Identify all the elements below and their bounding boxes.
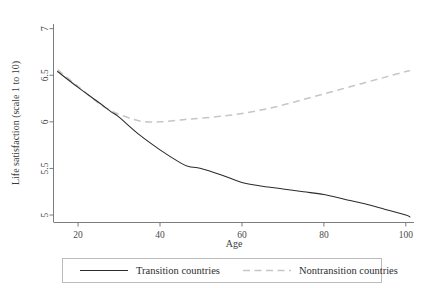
y-tick-group: 55.566.57 xyxy=(40,26,54,217)
y-tick-label: 5 xyxy=(40,212,50,217)
y-tick-label: 7 xyxy=(40,26,50,31)
series-line-transition-countries xyxy=(58,72,410,217)
x-axis: 20406080100 Age xyxy=(54,223,415,250)
x-tick-label: 40 xyxy=(155,230,165,240)
x-axis-title: Age xyxy=(226,238,243,249)
legend-label-transition-countries: Transition countries xyxy=(136,265,220,276)
x-tick-label: 100 xyxy=(399,230,414,240)
chart-page: 55.566.57 Life satisfaction (scale 1 to … xyxy=(0,0,432,288)
series-group xyxy=(58,70,410,217)
y-tick-label: 5.5 xyxy=(40,162,50,174)
series-line-nontransition-countries xyxy=(58,70,410,122)
y-axis-title: Life satisfaction (scale 1 to 10) xyxy=(10,61,22,185)
y-tick-label: 6 xyxy=(40,119,50,124)
y-axis: 55.566.57 Life satisfaction (scale 1 to … xyxy=(10,24,54,222)
legend-label-nontransition-countries: Nontransition countries xyxy=(299,265,398,276)
x-tick-label: 80 xyxy=(319,230,329,240)
y-tick-label: 6.5 xyxy=(40,69,50,81)
x-tick-label: 20 xyxy=(73,230,83,240)
chart-canvas: 55.566.57 Life satisfaction (scale 1 to … xyxy=(0,0,432,288)
legend: Transition countries Nontransition count… xyxy=(63,259,398,283)
x-tick-group: 20406080100 xyxy=(73,223,413,240)
